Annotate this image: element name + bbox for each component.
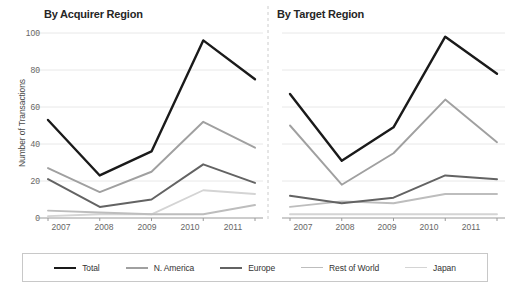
x-tick-label: 2010 (170, 223, 210, 232)
legend-item-n-america[interactable]: N. America (126, 263, 195, 273)
x-tick-label: 2009 (367, 223, 407, 232)
legend-label: Japan (433, 263, 456, 273)
legend-line-swatch-icon (220, 267, 242, 269)
chart-legend: Total N. America Europe Rest of World Ja… (22, 253, 488, 282)
x-tick-label: 2011 (213, 223, 253, 232)
legend-label: Europe (248, 263, 275, 273)
legend-item-japan[interactable]: Japan (405, 263, 456, 273)
plot-area (0, 0, 510, 293)
legend-item-total[interactable]: Total (54, 263, 99, 273)
legend-label: Total (82, 263, 99, 273)
x-tick-label: 2008 (325, 223, 365, 232)
legend-line-swatch-icon (405, 267, 427, 268)
x-tick-label: 2007 (41, 223, 81, 232)
legend-item-europe[interactable]: Europe (220, 263, 275, 273)
legend-line-swatch-icon (54, 267, 76, 269)
legend-label: Rest of World (329, 263, 379, 273)
legend-line-swatch-icon (126, 267, 148, 269)
legend-item-rest-of-world[interactable]: Rest of World (301, 263, 379, 273)
x-tick-label: 2009 (127, 223, 167, 232)
x-tick-label: 2010 (409, 223, 449, 232)
x-tick-label: 2011 (451, 223, 491, 232)
x-tick-label: 2008 (84, 223, 124, 232)
legend-label: N. America (154, 263, 195, 273)
x-tick-label: 2007 (283, 223, 323, 232)
legend-line-swatch-icon (301, 267, 323, 268)
chart-figure: By Acquirer Region By Target Region Numb… (0, 0, 510, 293)
